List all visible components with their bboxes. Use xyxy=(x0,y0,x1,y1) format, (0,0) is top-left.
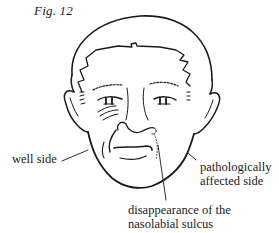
right-ear xyxy=(194,80,220,134)
leader-sulcus xyxy=(158,145,166,200)
well-side-text: well side xyxy=(12,152,57,166)
left-cheek-wrinkles xyxy=(98,106,118,120)
head-outline xyxy=(72,16,212,80)
right-eye xyxy=(154,97,176,104)
sulcus-line1: disappearance of the xyxy=(128,203,231,217)
leader-lines xyxy=(62,145,196,200)
leader-well-side xyxy=(62,150,88,161)
nasolabial-fold-well xyxy=(103,130,117,158)
leader-affected-side xyxy=(188,153,196,160)
mouth xyxy=(114,146,152,159)
label-affected-side: pathologically affected side xyxy=(200,160,272,188)
eyebrows xyxy=(93,82,178,90)
faint-sulcus-affected xyxy=(154,134,157,160)
face-illustration xyxy=(0,0,279,233)
label-well-side: well side xyxy=(12,152,57,166)
nose xyxy=(118,88,157,134)
left-eye xyxy=(98,97,122,104)
left-temple-lines xyxy=(80,92,85,104)
affected-side-line1: pathologically xyxy=(200,160,272,174)
label-nasolabial-sulcus: disappearance of the nasolabial sulcus xyxy=(128,203,231,231)
jaw-outline xyxy=(88,132,194,188)
hairline xyxy=(78,43,190,92)
affected-side-line2: affected side xyxy=(200,174,272,188)
right-temple-lines xyxy=(187,92,190,100)
sulcus-line2: nasolabial sulcus xyxy=(128,217,231,231)
